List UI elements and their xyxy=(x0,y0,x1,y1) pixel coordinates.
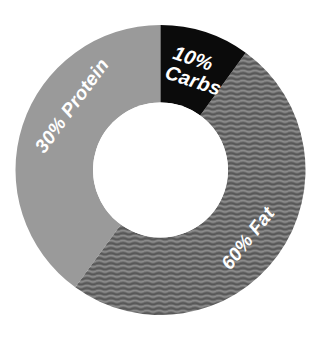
donut-center-hole xyxy=(93,103,228,238)
donut-chart-svg: 10% Carbs 60% Fat 30% Protein xyxy=(0,0,323,347)
donut-chart: 10% Carbs 60% Fat 30% Protein xyxy=(0,0,323,347)
